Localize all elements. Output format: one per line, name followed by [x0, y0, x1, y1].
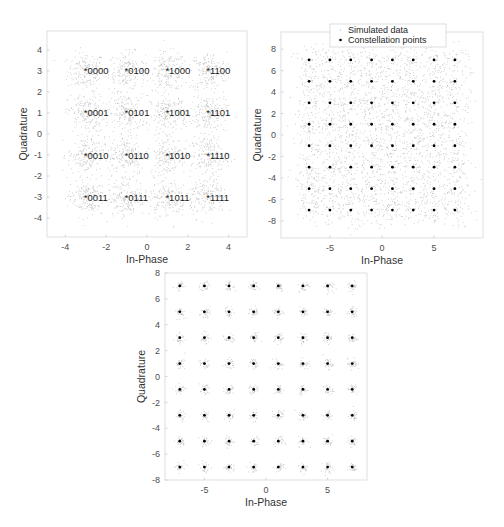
bit-label: *0111 [125, 192, 148, 203]
y-tick-label: 6 [271, 66, 276, 76]
x-tick-label: -5 [326, 243, 334, 253]
bit-label: *0011 [84, 192, 108, 203]
y-tick-label: 8 [155, 268, 160, 278]
x-tick-label: 4 [226, 242, 231, 252]
bit-label: *1110 [206, 150, 229, 161]
y-tick-label: 6 [155, 294, 160, 304]
x-axis-label: In-Phase [245, 496, 287, 508]
x-tick-label: 2 [185, 242, 190, 252]
qam64-clean-plot: -505-8-6-4-202468In-PhaseQuadrature [135, 268, 367, 508]
y-tick-label: 0 [37, 129, 42, 139]
y-tick-label: 0 [155, 372, 160, 382]
y-axis-label: Quadrature [17, 107, 29, 160]
axes-box [281, 32, 483, 238]
axes-box [47, 31, 247, 237]
constellation-points [178, 285, 353, 469]
y-tick-label: -4 [152, 423, 160, 433]
y-tick-label: -6 [268, 195, 276, 205]
constellation-points: *0000*0100*1000*1100*0001*0101*1001*1101… [84, 65, 231, 202]
bit-label: *1000 [165, 65, 190, 76]
y-axis-label: Quadrature [251, 108, 263, 161]
y-tick-label: -2 [34, 171, 42, 181]
legend-entry: Simulated data [348, 25, 408, 35]
x-axis-label: In-Phase [126, 253, 168, 265]
y-tick-label: 4 [271, 87, 276, 97]
simulated-data-points [172, 280, 359, 476]
y-tick-label: -2 [152, 398, 160, 408]
y-tick-label: -4 [268, 173, 276, 183]
x-tick-label: 5 [432, 243, 437, 253]
y-tick-label: 4 [155, 320, 160, 330]
bit-label: *0010 [84, 150, 109, 161]
y-tick-label: 8 [271, 44, 276, 54]
legend: Simulated dataConstellation points [330, 24, 446, 47]
x-axis-label: In-Phase [361, 254, 403, 266]
y-tick-label: 2 [37, 87, 42, 97]
y-tick-label: -2 [268, 152, 276, 162]
legend-entry: Constellation points [348, 35, 427, 45]
bit-label: *1001 [165, 107, 190, 118]
x-tick-label: 0 [263, 485, 268, 495]
y-tick-label: -8 [152, 475, 160, 485]
y-tick-label: -3 [34, 192, 42, 202]
bit-label: *0001 [84, 107, 109, 118]
qam16-plot: -4-2024-4-3-2-101234In-PhaseQuadrature*0… [17, 31, 247, 265]
simulated-data-points [287, 41, 481, 235]
bit-label: *1101 [206, 107, 230, 118]
tick-labels: -505-8-6-4-202468 [152, 268, 330, 495]
y-tick-label: 3 [37, 66, 42, 76]
bit-label: *0101 [125, 107, 150, 118]
bit-label: *0110 [125, 150, 149, 161]
y-tick-label: -8 [268, 216, 276, 226]
y-tick-label: 4 [37, 45, 42, 55]
y-axis-label: Quadrature [135, 350, 147, 403]
bit-label: *0000 [84, 65, 109, 76]
y-tick-label: -1 [34, 150, 42, 160]
y-tick-label: -4 [34, 213, 42, 223]
figure-canvas: -4-2024-4-3-2-101234In-PhaseQuadrature*0… [0, 0, 504, 527]
x-tick-label: 5 [325, 485, 330, 495]
x-tick-label: -5 [200, 485, 208, 495]
x-tick-label: 0 [379, 243, 384, 253]
bit-label: *1111 [206, 192, 229, 203]
x-tick-label: 0 [144, 242, 149, 252]
bit-label: *1100 [206, 65, 230, 76]
y-tick-label: -6 [152, 449, 160, 459]
y-tick-label: 1 [37, 108, 42, 118]
bit-label: *1011 [165, 192, 189, 203]
bit-label: *1010 [165, 150, 190, 161]
x-tick-label: -4 [61, 242, 69, 252]
y-tick-label: 2 [155, 346, 160, 356]
bit-label: *0100 [125, 65, 150, 76]
axes-box [165, 273, 367, 480]
y-tick-label: 2 [271, 109, 276, 119]
x-tick-label: -2 [102, 242, 110, 252]
qam64-noisy-plot: -505-8-6-4-202468In-PhaseQuadratureSimul… [251, 24, 483, 266]
y-tick-label: 0 [271, 130, 276, 140]
